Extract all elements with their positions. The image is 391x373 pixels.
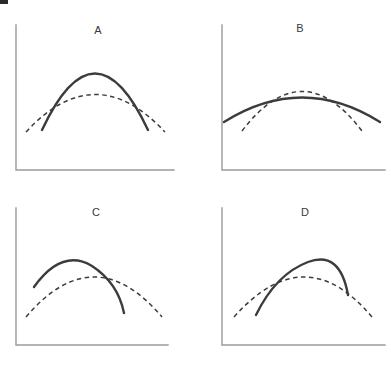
four-panel-curve-figure: A B C D [0, 0, 391, 373]
corner-artifact [0, 0, 8, 4]
panel-d-label: D [301, 206, 309, 218]
panel-c-label: C [92, 206, 100, 218]
panel-b-label: B [296, 22, 304, 34]
panel-a-label: A [94, 24, 102, 36]
figure-background [0, 0, 391, 373]
